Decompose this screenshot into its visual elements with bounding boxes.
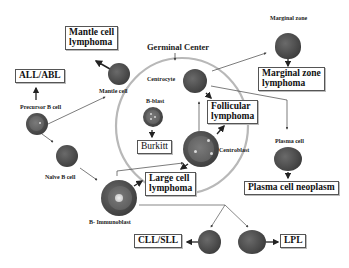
b-immunoblast-cell (101, 180, 137, 216)
burkitt-box: Burkitt (137, 140, 172, 154)
marginal-zone-cell (275, 33, 301, 59)
large-cell-lymphoma-line2: lymphoma (149, 184, 192, 194)
follicular-lymphoma-line2: lymphoma (211, 112, 254, 122)
cll-sll-box: CLL/SLL (134, 234, 182, 248)
follicular-lymphoma-box: Follicular lymphoma (207, 100, 258, 124)
mantle-cell (108, 63, 130, 85)
marginal-zone-lymphoma-line2: lymphoma (262, 79, 321, 89)
mantle-cell-lymphoma-box: Mantle cell lymphoma (65, 26, 118, 50)
marginal-zone-label: Marginal zone (270, 15, 307, 21)
centroblast-cell (183, 131, 219, 167)
mantle-cell-label: Mantle cell (99, 88, 128, 94)
naive-b-cell-label: Naïve B cell (45, 174, 75, 180)
marginal-zone-lymphoma-box: Marginal zone lymphoma (258, 67, 325, 91)
plasma-cell-label: Plasma cell (275, 138, 304, 144)
mantle-cell-lymphoma-line2: lymphoma (69, 38, 114, 48)
lpl-box: LPL (280, 234, 306, 248)
centrocyte-cell (183, 69, 207, 93)
naive-b-cell (56, 145, 78, 167)
precursor-b-cell-label: Precursor B cell (20, 104, 61, 110)
germinal-center-label: Germinal Center (147, 42, 209, 52)
plasma-cell-neoplasm-box: Plasma cell neoplasm (244, 181, 339, 195)
all-abl-box: ALL/ABL (15, 69, 65, 83)
precursor-b-cell (26, 113, 48, 135)
lymphoplasmacytic-cell (238, 230, 266, 254)
b-blast-cell (143, 107, 163, 127)
small-lymphocyte-cell (198, 230, 221, 254)
large-cell-lymphoma-box: Large cell lymphoma (145, 172, 196, 196)
centroblast-label: Centroblast (219, 147, 249, 153)
b-immunoblast-label: B- Immunoblast (89, 219, 131, 225)
lymphoma-origin-diagram: Germinal Center ALL/ABL Mantle cell lymp… (0, 0, 349, 268)
b-blast-label: B-blast (146, 98, 164, 104)
centrocyte-label: Centrocyte (147, 76, 175, 82)
plasma-cell (274, 147, 302, 171)
